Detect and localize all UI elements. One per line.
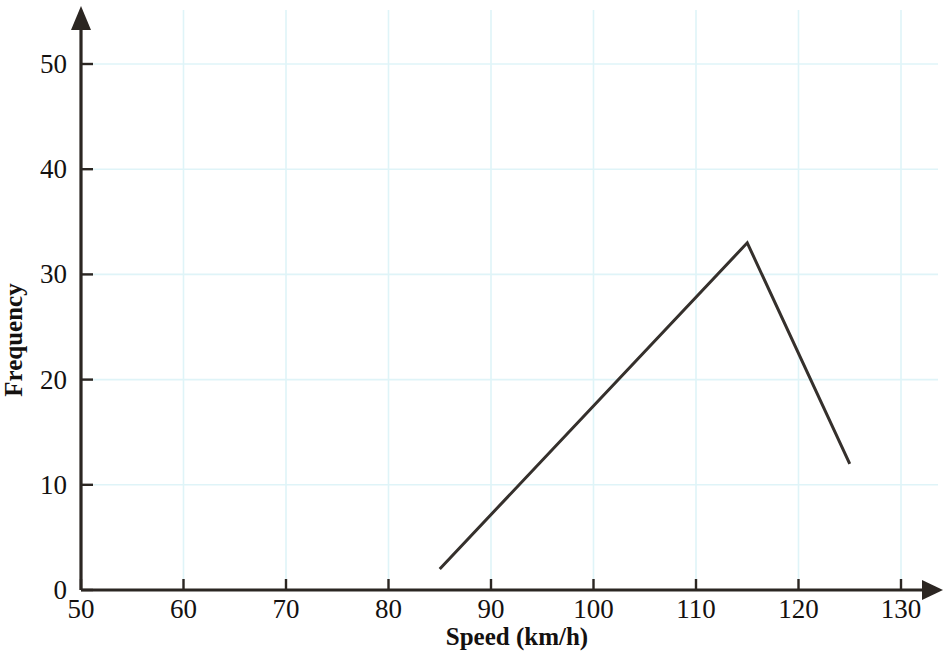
x-axis-tick-label: 90 [478,594,505,624]
y-axis-tick-label: 10 [40,470,67,500]
x-axis-tick-label: 50 [68,594,95,624]
chart-container: 5060708090100110120130 01020304050 Speed… [0,0,947,652]
x-axis-tick-label: 60 [170,594,197,624]
frequency-polygon-chart: 5060708090100110120130 01020304050 Speed… [0,0,947,652]
x-axis-tick-label: 100 [573,594,614,624]
x-axis-tick-labels: 5060708090100110120130 [68,594,922,624]
y-axis-title: Frequency [0,283,27,397]
y-axis-tick-label: 50 [40,49,67,79]
x-axis-tick-label: 110 [676,594,716,624]
y-axis-tick-label: 30 [40,259,67,289]
y-axis-tick-label: 40 [40,154,67,184]
x-axis-tick-label: 80 [375,594,402,624]
chart-background [0,0,947,652]
y-axis-tick-label: 0 [54,575,68,605]
y-axis-tick-label: 20 [40,365,67,395]
x-axis-tick-label: 120 [778,594,819,624]
x-axis-tick-label: 70 [273,594,300,624]
x-axis-tick-label: 130 [881,594,922,624]
x-axis-title: Speed (km/h) [446,623,588,651]
